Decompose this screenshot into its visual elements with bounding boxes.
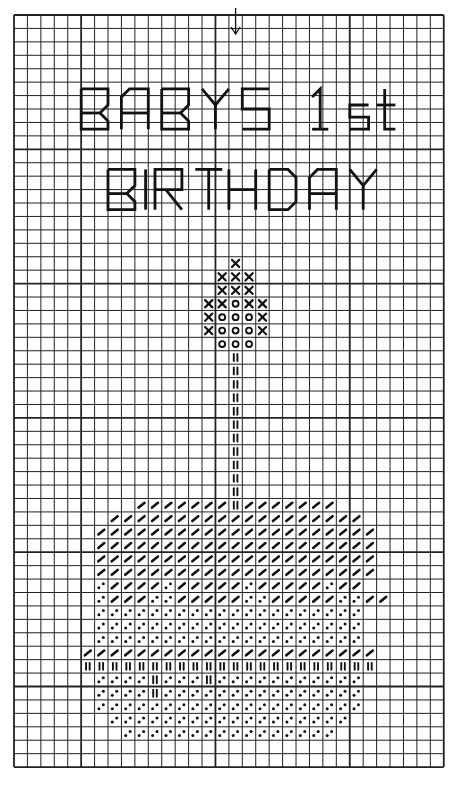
bar-stitch bbox=[207, 663, 211, 670]
slash-stitch bbox=[179, 516, 185, 521]
slash-stitch bbox=[233, 570, 239, 575]
slash-stitch bbox=[125, 651, 131, 656]
dot-stitch bbox=[165, 730, 172, 737]
dot-stitch bbox=[339, 703, 346, 710]
slash-stitch bbox=[327, 516, 333, 521]
dot-stitch bbox=[178, 676, 185, 683]
dot-stitch bbox=[178, 636, 185, 643]
slash-stitch bbox=[192, 651, 198, 656]
dot-stitch bbox=[312, 623, 319, 630]
slash-stitch bbox=[286, 516, 292, 521]
slash-stitch bbox=[367, 556, 373, 561]
dot-stitch bbox=[299, 730, 306, 737]
dot-stitch bbox=[124, 623, 131, 630]
dot-stitch bbox=[259, 717, 266, 724]
dot-stitch bbox=[259, 730, 266, 737]
slash-stitch bbox=[340, 543, 346, 548]
dot-stitch bbox=[232, 717, 239, 724]
bar-stitch bbox=[167, 663, 171, 670]
letter-R bbox=[155, 169, 182, 209]
slash-stitch bbox=[98, 543, 104, 548]
slash-stitch bbox=[273, 530, 279, 535]
dot-stitch bbox=[299, 717, 306, 724]
dot-stitch bbox=[178, 703, 185, 710]
slash-stitch bbox=[125, 597, 131, 602]
slash-stitch bbox=[367, 651, 373, 656]
dot-stitch bbox=[165, 717, 172, 724]
slash-stitch bbox=[206, 530, 212, 535]
dot-stitch bbox=[111, 703, 118, 710]
slash-stitch bbox=[313, 543, 319, 548]
slash-stitch bbox=[313, 570, 319, 575]
circle-stitch bbox=[233, 314, 239, 320]
cross-stitch bbox=[259, 327, 266, 334]
slash-stitch bbox=[273, 570, 279, 575]
dot-stitch bbox=[232, 676, 239, 683]
dot-stitch bbox=[218, 636, 225, 643]
slash-stitch bbox=[206, 503, 212, 508]
dot-stitch bbox=[178, 690, 185, 697]
slash-stitch bbox=[206, 597, 212, 602]
dot-stitch bbox=[97, 609, 104, 616]
bar-stitch bbox=[314, 663, 318, 670]
dot-stitch bbox=[245, 690, 252, 697]
dot-stitch bbox=[353, 636, 360, 643]
slash-stitch bbox=[112, 583, 118, 588]
slash-stitch bbox=[165, 570, 171, 575]
slash-stitch bbox=[246, 530, 252, 535]
dot-stitch bbox=[205, 690, 212, 697]
dot-stitch bbox=[259, 703, 266, 710]
dot-stitch bbox=[124, 717, 131, 724]
slash-stitch bbox=[152, 583, 158, 588]
slash-stitch bbox=[165, 651, 171, 656]
dot-stitch bbox=[178, 623, 185, 630]
dot-stitch bbox=[178, 717, 185, 724]
dot-stitch bbox=[205, 609, 212, 616]
slash-stitch bbox=[179, 530, 185, 535]
dot-stitch bbox=[165, 623, 172, 630]
dot-stitch bbox=[218, 717, 225, 724]
slash-stitch bbox=[125, 530, 131, 535]
dot-stitch bbox=[245, 717, 252, 724]
bar-stitch bbox=[234, 394, 238, 401]
slash-stitch bbox=[313, 556, 319, 561]
circle-stitch bbox=[233, 341, 239, 347]
slash-stitch bbox=[286, 530, 292, 535]
slash-stitch bbox=[286, 543, 292, 548]
dot-stitch bbox=[259, 636, 266, 643]
dot-stitch bbox=[326, 730, 333, 737]
dot-stitch bbox=[339, 717, 346, 724]
slash-stitch bbox=[354, 651, 360, 656]
dot-stitch bbox=[232, 730, 239, 737]
bar-stitch bbox=[234, 421, 238, 428]
slash-stitch bbox=[286, 583, 292, 588]
slash-stitch bbox=[300, 651, 306, 656]
slash-stitch bbox=[165, 530, 171, 535]
dot-stitch bbox=[151, 609, 158, 616]
dot-stitch bbox=[312, 609, 319, 616]
dot-stitch bbox=[205, 717, 212, 724]
dot-stitch bbox=[97, 596, 104, 603]
dot-stitch bbox=[245, 596, 252, 603]
cross-stitch bbox=[245, 273, 252, 280]
slash-stitch bbox=[367, 543, 373, 548]
bar-stitch bbox=[234, 448, 238, 455]
dot-stitch bbox=[312, 636, 319, 643]
slash-stitch bbox=[313, 530, 319, 535]
dot-stitch bbox=[124, 730, 131, 737]
slash-stitch bbox=[112, 530, 118, 535]
dot-stitch bbox=[111, 636, 118, 643]
slash-stitch bbox=[192, 583, 198, 588]
slash-stitch bbox=[260, 583, 266, 588]
dot-stitch bbox=[124, 636, 131, 643]
circle-stitch bbox=[219, 341, 225, 347]
dot-stitch bbox=[97, 690, 104, 697]
dot-stitch bbox=[259, 609, 266, 616]
bar-stitch bbox=[234, 461, 238, 468]
dot-stitch bbox=[245, 582, 252, 589]
dot-stitch bbox=[165, 703, 172, 710]
slash-stitch bbox=[340, 651, 346, 656]
dot-stitch bbox=[245, 623, 252, 630]
bar-stitch bbox=[220, 663, 224, 670]
dot-stitch bbox=[245, 609, 252, 616]
